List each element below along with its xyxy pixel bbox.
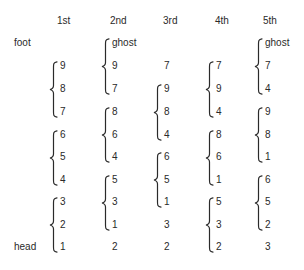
left-brace-icon — [49, 130, 59, 186]
cell-value: 7 — [164, 60, 170, 72]
header-5th: 5th — [263, 15, 277, 27]
header-2nd: 2nd — [110, 15, 127, 27]
cell-value: 8 — [60, 83, 66, 95]
cell-value: 2 — [60, 219, 66, 231]
cell-value: 9 — [265, 106, 271, 118]
cell-value: 4 — [216, 106, 222, 118]
header-1st: 1st — [57, 15, 70, 27]
header-4th: 4th — [215, 15, 229, 27]
cell-value: ghost — [265, 37, 289, 49]
left-brace-icon — [153, 84, 163, 141]
cell-value: 4 — [112, 151, 118, 163]
cell-value: 5 — [164, 174, 170, 186]
cell-value: 5 — [216, 196, 222, 208]
cell-value: 6 — [164, 151, 170, 163]
left-brace-icon — [205, 61, 215, 118]
cell-value: 1 — [60, 241, 66, 253]
cell-value: 4 — [164, 129, 170, 141]
header-3rd: 3rd — [163, 15, 177, 27]
cell-value: 3 — [164, 219, 170, 231]
left-brace-icon — [101, 175, 111, 231]
cell-value: 7 — [216, 60, 222, 72]
cell-value: 7 — [265, 60, 271, 72]
cell-value: 4 — [265, 83, 271, 95]
cell-value: 9 — [216, 83, 222, 95]
cell-value: 8 — [265, 129, 271, 141]
left-brace-icon — [205, 130, 215, 186]
cell-value: 5 — [112, 174, 118, 186]
cell-value: 9 — [164, 83, 170, 95]
left-brace-icon — [49, 197, 59, 253]
cell-value: 1 — [164, 196, 170, 208]
cell-value: 5 — [60, 151, 66, 163]
cell-value: 8 — [112, 106, 118, 118]
cell-value: 5 — [265, 196, 271, 208]
cell-value: 2 — [112, 241, 118, 253]
cell-value: 3 — [265, 241, 271, 253]
left-brace-icon — [49, 61, 59, 118]
cell-value: 9 — [112, 60, 118, 72]
cell-value: 1 — [216, 174, 222, 186]
left-brace-icon — [254, 38, 264, 95]
cell-value: 9 — [60, 60, 66, 72]
cell-value: 1 — [265, 151, 271, 163]
cell-value: 2 — [216, 241, 222, 253]
left-brace-icon — [101, 107, 111, 163]
cell-value: 3 — [112, 196, 118, 208]
cell-value: 2 — [164, 241, 170, 253]
cell-value: 2 — [265, 219, 271, 231]
cell-value: ghost — [112, 37, 136, 49]
left-brace-icon — [101, 38, 111, 95]
cell-value: 3 — [60, 196, 66, 208]
cell-value: 6 — [112, 129, 118, 141]
left-brace-icon — [153, 152, 163, 208]
cell-value: 6 — [265, 174, 271, 186]
cell-value: 6 — [216, 151, 222, 163]
row-label-foot: foot — [14, 37, 31, 49]
cell-value: 6 — [60, 129, 66, 141]
cell-value: 7 — [112, 83, 118, 95]
left-brace-icon — [254, 175, 264, 231]
row-label-head: head — [14, 241, 36, 253]
cell-value: 7 — [60, 106, 66, 118]
cell-value: 1 — [112, 219, 118, 231]
left-brace-icon — [254, 107, 264, 163]
cell-value: 3 — [216, 219, 222, 231]
left-brace-icon — [205, 197, 215, 253]
cell-value: 8 — [216, 129, 222, 141]
cell-value: 8 — [164, 106, 170, 118]
cell-value: 4 — [60, 174, 66, 186]
